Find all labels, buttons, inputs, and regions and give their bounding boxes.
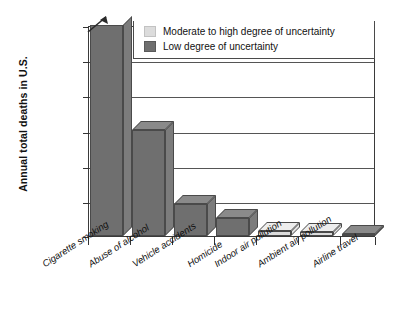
bar-cigarette-smoking [90, 25, 123, 236]
y-axis-title: Annual total deaths in U.S. [17, 29, 29, 219]
bar-homicide [216, 218, 249, 236]
legend-label: Moderate to high degree of uncertainty [163, 26, 335, 37]
y-tick-mark [83, 62, 89, 63]
y-tick-mark [83, 97, 89, 98]
legend-label: Low degree of uncertainty [163, 41, 278, 52]
y-tick-mark [83, 203, 89, 204]
legend-swatch-icon [144, 26, 156, 37]
bar-front-face [132, 130, 165, 236]
y-tick-mark [83, 168, 89, 169]
chart-legend: Moderate to high degree of uncertainty L… [133, 21, 375, 59]
legend-item-low-uncertainty: Low degree of uncertainty [134, 39, 374, 54]
axis-break-arrow-icon [86, 14, 112, 34]
bar-abuse-of-alcohol [132, 130, 165, 236]
bar-chart-figure: Annual total deaths in U.S. 300000 25000… [0, 0, 394, 331]
bar-front-face [216, 218, 249, 236]
bar-side-face [123, 16, 132, 236]
x-axis-label-airline-travel: Airline travel [310, 232, 360, 270]
bar-side-face [165, 121, 174, 236]
legend-swatch-icon [144, 41, 156, 52]
bar-front-face [90, 25, 123, 236]
y-tick-mark [83, 133, 89, 134]
x-tick-mark [375, 237, 376, 245]
legend-item-moderate-high-uncertainty: Moderate to high degree of uncertainty [134, 24, 374, 39]
